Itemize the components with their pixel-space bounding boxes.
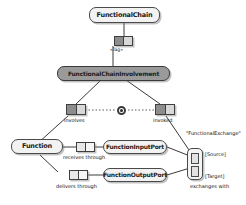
node-functional-chain[interactable]: FunctionalChain xyxy=(89,7,160,23)
node-function-output-port[interactable]: FunctionOutputPort xyxy=(103,168,167,182)
label-delivers-through: delivers through xyxy=(56,184,97,189)
label-source: [Source] xyxy=(205,152,226,157)
label-involves: involves xyxy=(64,118,85,123)
propbox-receives-cell-a xyxy=(77,143,86,151)
label-target: [Target] xyxy=(205,174,224,179)
label-receives-through: receives through xyxy=(63,155,105,160)
edge-involvement-to-invoked xyxy=(126,80,160,104)
node-functional-chain-involvement-label: FunctionalChainInvolvement xyxy=(68,71,159,77)
edge-function-to-delivers xyxy=(40,155,58,172)
label-invoked: invoked xyxy=(153,118,173,123)
propbox-delivers-through[interactable] xyxy=(69,170,88,180)
edge-involvement-to-involves xyxy=(76,80,101,104)
propbox-delivers-cell-a xyxy=(70,171,79,179)
propbox-receives-through[interactable] xyxy=(76,142,95,152)
diagram-canvas: FunctionalChain FunctionalChainInvolveme… xyxy=(0,0,246,205)
node-function-input-port-label: FunctionInputPort xyxy=(106,144,164,150)
propbox-tag-cell-a xyxy=(115,37,124,45)
exchange-slot-target xyxy=(191,166,199,177)
node-function-label: Function xyxy=(22,143,52,150)
label-functional-exchange-stereotype: "FunctionalExchange" xyxy=(186,131,241,136)
exchange-box[interactable] xyxy=(187,148,203,180)
junction-dot xyxy=(117,106,126,115)
node-function-output-port-label: FunctionOutputPort xyxy=(103,172,167,178)
propbox-delivers-cell-b xyxy=(79,171,87,179)
propbox-invoked-cell-b xyxy=(166,105,174,114)
propbox-involves-cell-a xyxy=(67,105,77,114)
node-function-input-port[interactable]: FunctionInputPort xyxy=(103,140,167,154)
node-functional-chain-label: FunctionalChain xyxy=(97,12,153,19)
propbox-invoked-cell-a xyxy=(156,105,166,114)
label-tag: «Tag» xyxy=(110,48,123,53)
propbox-involves[interactable] xyxy=(66,104,86,115)
propbox-tag[interactable] xyxy=(114,36,133,46)
propbox-invoked[interactable] xyxy=(155,104,175,115)
propbox-receives-cell-b xyxy=(86,143,94,151)
node-function[interactable]: Function xyxy=(11,139,63,154)
label-exchanges-with: exchanges with xyxy=(190,184,229,189)
node-functional-chain-involvement[interactable]: FunctionalChainInvolvement xyxy=(57,66,170,81)
propbox-tag-cell-b xyxy=(124,37,132,45)
propbox-involves-cell-b xyxy=(77,105,85,114)
exchange-slot-source xyxy=(191,153,199,164)
